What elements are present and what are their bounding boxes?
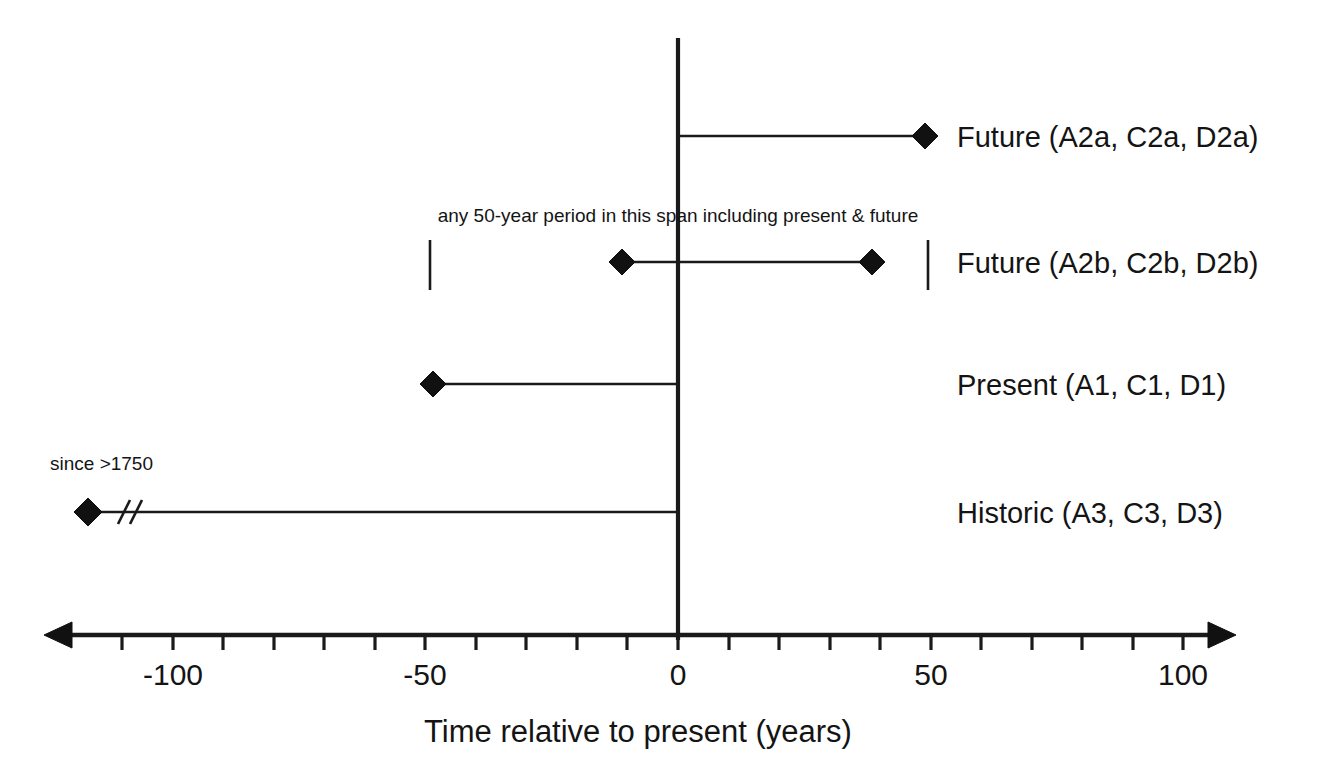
series-label-future-a2a: Future (A2a, C2a, D2a) [957,121,1258,153]
x-axis-arrow-right [1208,622,1236,648]
x-tick-label-minus-50: -50 [403,658,446,691]
x-tick-label-50: 50 [914,658,947,691]
x-axis-arrow-left [44,622,72,648]
series-label-present-a1: Present (A1, C1, D1) [957,369,1226,401]
x-tick-label-minus-100: -100 [143,658,203,691]
x-axis: -100 -50 0 50 100 [44,622,1236,691]
figure-canvas: Future (A2a, C2a, D2a) any 50-year perio… [0,0,1338,784]
series-label-historic-a3: Historic (A3, C3, D3) [957,497,1223,529]
x-tick-label-zero: 0 [670,658,687,691]
series-row-historic-a3 [74,498,678,526]
x-axis-title: Time relative to present (years) [424,714,852,749]
series-label-future-a2b: Future (A2b, C2b, D2b) [957,247,1258,279]
diamond-marker-end [859,249,885,275]
span-annotation: any 50-year period in this span includin… [438,205,919,226]
series-row-future-a2a [678,123,938,149]
diamond-marker-start [74,498,102,526]
diamond-marker-start [609,249,635,275]
x-tick-label-100: 100 [1158,658,1208,691]
diamond-marker-end [912,123,938,149]
timeline-chart: Future (A2a, C2a, D2a) any 50-year perio… [0,0,1338,784]
historic-annotation: since >1750 [50,453,153,474]
diamond-marker-start [420,371,446,397]
series-row-present-a1 [420,371,678,397]
